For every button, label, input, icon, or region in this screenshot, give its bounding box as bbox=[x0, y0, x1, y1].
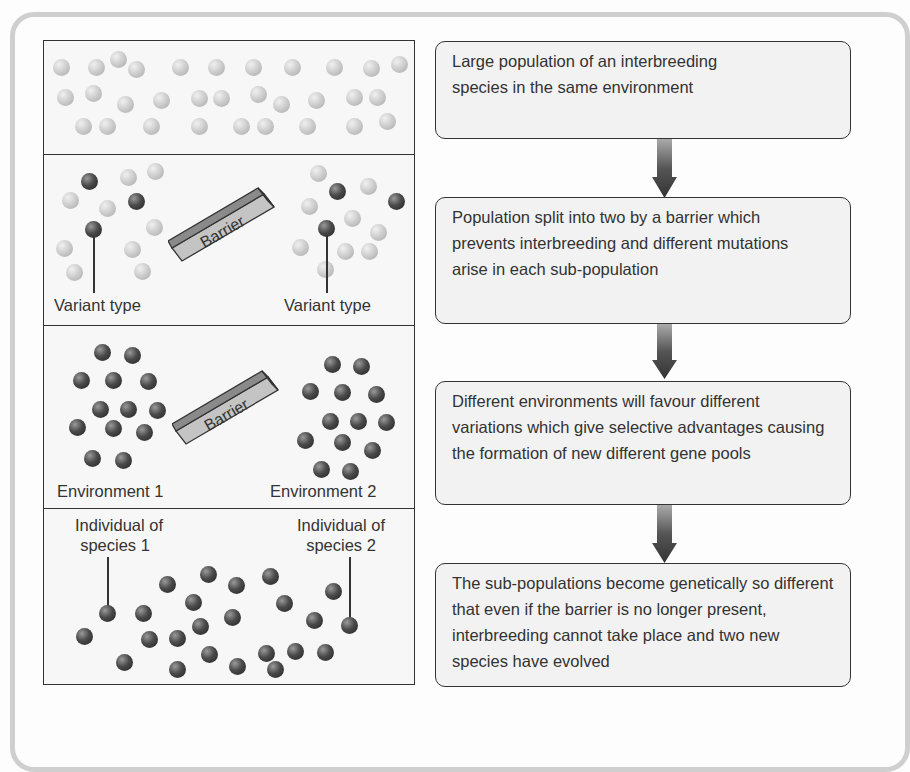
down-arrow-icon bbox=[652, 505, 677, 563]
environment-2-label: Environment 2 bbox=[270, 481, 376, 501]
variant-type-label-left: Variant type bbox=[54, 295, 141, 315]
variant-pointer-right bbox=[326, 235, 328, 293]
environment-1-label: Environment 1 bbox=[57, 481, 163, 501]
flow-step-1: Large population of an interbreeding spe… bbox=[435, 41, 851, 139]
down-arrow-icon bbox=[652, 139, 677, 198]
stage-1-population bbox=[44, 41, 414, 155]
flow-step-3: Different environments will favour diffe… bbox=[435, 381, 851, 505]
illustration-panel: Variant type Barrier Variant type bbox=[43, 40, 415, 685]
barrier-block: Barrier bbox=[168, 185, 284, 275]
species-1-pointer bbox=[107, 557, 109, 607]
flow-step-2: Population split into two by a barrier w… bbox=[435, 197, 851, 324]
stage-3-environments: Environment 1 Barrier Environment 2 bbox=[44, 326, 414, 509]
variant-type-label-right: Variant type bbox=[284, 295, 371, 315]
variant-pointer-left bbox=[93, 237, 95, 293]
species-2-label: Individual of species 2 bbox=[276, 515, 406, 555]
flow-step-4: The sub-populations become genetically s… bbox=[435, 563, 851, 687]
stage-4-new-species: Individual of species 1 Individual of sp… bbox=[44, 509, 414, 686]
species-1-label: Individual of species 1 bbox=[54, 515, 184, 555]
down-arrow-icon bbox=[652, 324, 677, 379]
stage-2-split: Variant type Barrier Variant type bbox=[44, 155, 414, 326]
barrier-block: Barrier bbox=[172, 368, 288, 458]
